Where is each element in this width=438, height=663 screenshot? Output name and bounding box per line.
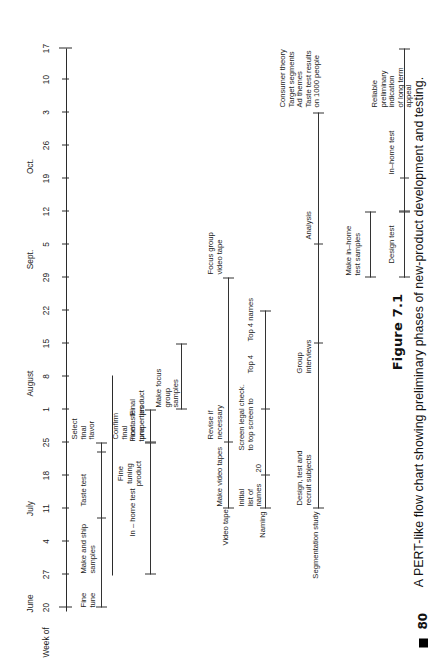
bar-milestone-tick — [224, 441, 233, 442]
axis-tick — [62, 540, 69, 541]
axis-tick-label: 25 — [41, 437, 51, 446]
axis-tick — [62, 408, 69, 409]
time-axis-line — [66, 48, 67, 611]
axis-tick — [62, 342, 69, 343]
bar-end-cap — [313, 112, 324, 113]
axis-tick-label: 11 — [41, 504, 51, 513]
axis-tick-label: 19 — [41, 173, 51, 182]
month-label-august: August — [25, 370, 35, 396]
outcome-label-final-product: Final product — [129, 390, 146, 415]
axis-tick — [62, 210, 69, 211]
axis-tick-label: 3 — [41, 110, 51, 115]
task-bar-segmentation-study — [318, 112, 319, 508]
bar-start-cap — [176, 408, 187, 409]
axis-tick-label: 17 — [41, 43, 51, 52]
axis-tick — [62, 375, 69, 376]
task-bar-fine-tune — [150, 409, 151, 442]
figure-caption-text: A PERT-like flow chart showing prelimina… — [412, 0, 426, 663]
milestone-label-analysis: Analysis — [305, 211, 314, 239]
task-bar-make-video-tapes — [228, 277, 229, 508]
axis-tick-label: 22 — [41, 305, 51, 314]
axis-caption-week-of: Week of — [41, 627, 51, 657]
bar-end-cap — [176, 343, 187, 344]
bar-end-cap — [365, 211, 376, 212]
axis-tick — [62, 144, 69, 145]
month-label-sept: Sept. — [25, 249, 35, 268]
bar-milestone-tick — [97, 451, 106, 452]
bar-end-cap — [260, 310, 271, 311]
figure-caption-block: Figure 7.1 A PERT-like flow chart showin… — [390, 0, 426, 663]
task-label-initial-list-of-names: Initial list of names — [238, 483, 264, 506]
task-label-make-focus-group-samples: Make focus group samples — [155, 368, 181, 407]
axis-tick-label: 26 — [41, 140, 51, 149]
bar-end-cap — [145, 409, 156, 410]
axis-tick — [62, 573, 69, 574]
bar-start-cap — [313, 507, 324, 508]
bar-start-cap — [223, 507, 234, 508]
bar-start-cap — [96, 606, 107, 607]
axis-tick-label: 12 — [41, 206, 51, 215]
task-label-design-test-recruit-subjects: Design, test and recruit subjects — [296, 450, 313, 505]
axis-tick — [62, 78, 69, 79]
axis-tick-label: 5 — [41, 242, 51, 247]
page-folio: 80 — [416, 612, 430, 647]
axis-tick-label: 8 — [41, 374, 51, 379]
bar-start-cap — [260, 507, 271, 508]
month-label-july: July — [25, 501, 35, 516]
bar-milestone-tick — [314, 243, 323, 244]
axis-tick — [62, 276, 69, 277]
milestone-label-revise-if-necessary: Revise if necessary — [207, 404, 224, 439]
bar-start-cap — [145, 441, 156, 442]
bar-milestone-tick — [261, 474, 270, 475]
axis-tick — [62, 111, 69, 112]
milestone-label-screen-legal-check: Screen legal check. to top screen to — [238, 384, 255, 450]
outcome-label-consumer-theory: Consumer theory Target segments Ad theme… — [279, 49, 322, 107]
bar-start-cap — [365, 276, 376, 277]
month-label-june: June — [25, 594, 35, 612]
milestone-label-group-interviews: Group interviews — [296, 339, 313, 373]
axis-tick-label: 1 — [41, 407, 51, 412]
milestone-label-top-4: Top 4 — [247, 354, 256, 373]
bar-milestone-tick — [97, 517, 106, 518]
task-label-fine-tune: Fine tune — [129, 426, 146, 441]
outcome-label-select-final-flavor: Select final flavor — [71, 418, 97, 439]
task-bar-make-and-ship-samples — [101, 442, 102, 607]
axis-tick — [62, 474, 69, 475]
task-bar-naming — [265, 310, 266, 508]
lane-title-fine-tune: Fine tune — [80, 577, 97, 607]
lane-title-naming: Naming — [259, 511, 268, 545]
task-label-make-video-tapes: Make video tapes — [216, 446, 225, 506]
outcome-label-focus-group-video-tape: Focus group video tape — [207, 232, 224, 274]
task-label-make-in-home-test-samples: Make in–home test samples — [345, 225, 362, 275]
bar-end-cap — [223, 277, 234, 278]
axis-tick — [62, 243, 69, 244]
axis-tick — [62, 177, 69, 178]
axis-tick-label: 20 — [41, 602, 51, 611]
axis-tick — [62, 309, 69, 310]
page-number: 80 — [416, 612, 430, 629]
task-bar-in-home-test-1 — [150, 442, 151, 574]
black-square-bullet-icon — [419, 638, 428, 647]
month-label-oct: Oct. — [25, 158, 35, 173]
bar-start-cap — [145, 573, 156, 574]
task-label-make-and-ship-samples: Make and ship samples — [80, 524, 97, 573]
axis-tick-label: 4 — [41, 539, 51, 544]
axis-tick-label: 15 — [41, 338, 51, 347]
axis-tick — [62, 507, 69, 508]
task-label-in-home-test-1: In – home test — [129, 488, 138, 536]
axis-tick — [59, 606, 72, 607]
task-bar-make-focus-group-samples — [181, 343, 182, 409]
axis-tick-label: 18 — [41, 470, 51, 479]
axis-tick — [62, 441, 69, 442]
book-page: Week of June July August Sept. Oct. 20 2… — [0, 0, 438, 663]
milestone-label-taste-test: Taste test — [80, 474, 89, 507]
bar-end-cap — [96, 442, 107, 443]
axis-tick — [59, 47, 72, 48]
pert-flow-chart: Week of June July August Sept. Oct. 20 2… — [0, 0, 438, 663]
figure-number: Figure 7.1 — [390, 0, 405, 663]
lane-title-video-tape: Video tape — [222, 511, 231, 545]
lane-title-segmentation-study: Segmentation study — [312, 511, 321, 579]
task-bar-make-in-home-test-samples — [370, 211, 371, 277]
axis-tick-label: 29 — [41, 272, 51, 281]
axis-tick-label: 27 — [41, 569, 51, 578]
